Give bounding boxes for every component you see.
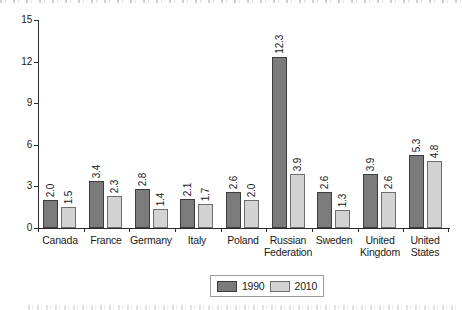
y-tick [34, 186, 38, 187]
y-tick-label: 0 [6, 222, 32, 234]
legend-swatch-2010 [270, 281, 290, 292]
x-tick [38, 228, 39, 232]
y-tick [34, 20, 38, 21]
value-label: 4.8 [428, 145, 441, 158]
bar-2010 [335, 210, 350, 228]
value-label: 3.9 [364, 158, 377, 171]
legend-label-2010: 2010 [295, 280, 318, 292]
value-label: 3.9 [291, 158, 304, 171]
bar-1990 [409, 155, 424, 228]
value-label: 2.1 [181, 183, 194, 196]
value-label: 1.7 [199, 188, 212, 201]
category-label: United States [398, 234, 452, 258]
y-axis [38, 20, 39, 229]
value-label: 1.5 [62, 191, 75, 204]
value-label: 2.3 [108, 180, 121, 193]
value-label: 2.6 [227, 176, 240, 189]
bar-1990 [43, 200, 58, 228]
legend: 1990 2010 [210, 275, 324, 297]
value-label: 1.4 [154, 193, 167, 206]
bar-1990 [135, 189, 150, 228]
y-tick [34, 145, 38, 146]
bar-2010 [381, 192, 396, 228]
y-tick-label: 15 [6, 14, 32, 26]
x-tick [221, 228, 222, 232]
bar-1990 [317, 192, 332, 228]
x-tick [266, 228, 267, 232]
legend-label-1990: 1990 [242, 280, 265, 292]
bar-2010 [153, 209, 168, 228]
y-tick [34, 103, 38, 104]
bar-1990 [89, 181, 104, 228]
x-tick [403, 228, 404, 232]
y-tick [34, 62, 38, 63]
bar-1990 [180, 199, 195, 228]
bar-2010 [427, 161, 442, 228]
value-label: 1.3 [336, 194, 349, 207]
y-tick-label: 6 [6, 139, 32, 151]
value-label: 2.6 [382, 176, 395, 189]
y-tick-label: 12 [6, 56, 32, 68]
x-tick [175, 228, 176, 232]
x-tick [129, 228, 130, 232]
bar-2010 [198, 204, 213, 228]
y-tick-label: 3 [6, 180, 32, 192]
y-tick-label: 9 [6, 97, 32, 109]
bar-1990 [272, 57, 287, 228]
value-label: 2.8 [136, 173, 149, 186]
legend-swatch-1990 [217, 281, 237, 292]
x-axis [38, 228, 450, 229]
bar-2010 [107, 196, 122, 228]
x-tick [312, 228, 313, 232]
clipped-source-text [28, 305, 460, 310]
value-label: 2.6 [318, 176, 331, 189]
value-label: 12.3 [273, 35, 286, 54]
x-tick [448, 228, 449, 232]
value-label: 2.0 [44, 184, 57, 197]
bar-2010 [244, 200, 259, 228]
x-tick [358, 228, 359, 232]
value-label: 2.0 [245, 184, 258, 197]
x-tick [84, 228, 85, 232]
bar-2010 [61, 207, 76, 228]
value-label: 3.4 [90, 165, 103, 178]
bar-1990 [226, 192, 241, 228]
bar-2010 [290, 174, 305, 228]
bar-1990 [363, 174, 378, 228]
clipped-header-text [0, 0, 462, 3]
value-label: 5.3 [410, 139, 423, 152]
bar-chart: 036912152.01.5Canada3.42.3France2.81.4Ge… [0, 0, 462, 310]
